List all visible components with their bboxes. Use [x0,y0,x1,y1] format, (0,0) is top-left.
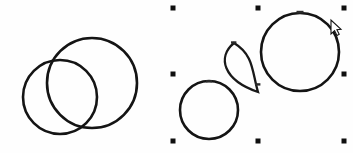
handle-middle-right[interactable] [342,72,347,77]
canvas-vector-layer [0,0,353,153]
handle-bottom-center[interactable] [256,139,261,144]
node-marker-small-circle-top[interactable] [206,80,212,82]
circle-right-small[interactable] [180,81,238,139]
left-shape-group[interactable] [23,38,137,134]
arrow-pointer-icon [331,20,341,35]
circle-right-large[interactable] [261,13,339,91]
handle-top-right[interactable] [342,6,347,11]
handle-bottom-right[interactable] [342,139,347,144]
node-marker-lens-bottom[interactable] [255,83,260,85]
circle-left-small[interactable] [23,60,97,134]
selection-handles [171,6,347,144]
lens-shape[interactable] [225,43,258,92]
mouse-cursor [331,20,341,35]
node-marker-large-circle-top[interactable] [297,11,304,14]
right-shape-group[interactable] [180,13,339,139]
handle-top-center[interactable] [256,6,261,11]
node-marker-lens-top[interactable] [231,41,236,43]
handle-bottom-left[interactable] [171,139,176,144]
drawing-canvas[interactable] [0,0,353,153]
handle-top-left[interactable] [171,6,176,11]
handle-middle-left[interactable] [171,72,176,77]
